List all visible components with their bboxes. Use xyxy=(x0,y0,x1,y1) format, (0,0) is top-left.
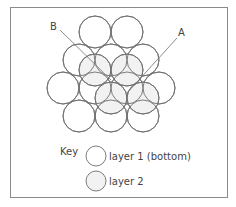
key-item-layer-1: layer 1 (bottom) xyxy=(109,152,191,162)
label-b: B xyxy=(50,22,57,32)
layer1-sphere-outline xyxy=(111,16,143,48)
key-item-layer-2: layer 2 xyxy=(109,177,144,187)
layer1-sphere-outline xyxy=(79,16,111,48)
label-a: A xyxy=(178,28,185,38)
layer1-sphere-outline xyxy=(63,100,95,132)
layer1-sphere-outline xyxy=(47,72,79,104)
key-title: Key xyxy=(60,147,78,157)
key-circle-layer-1 xyxy=(86,146,106,166)
key-circle-layer-2 xyxy=(86,171,106,191)
